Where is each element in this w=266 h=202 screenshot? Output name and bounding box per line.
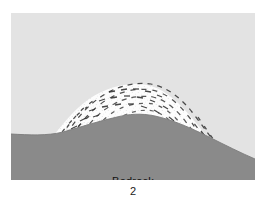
figure-root: Bedrock 2 bbox=[0, 0, 266, 202]
figure-caption-number: 2 bbox=[0, 185, 266, 198]
figure-panel: Bedrock bbox=[11, 13, 255, 180]
cross-section-illustration bbox=[11, 13, 255, 180]
